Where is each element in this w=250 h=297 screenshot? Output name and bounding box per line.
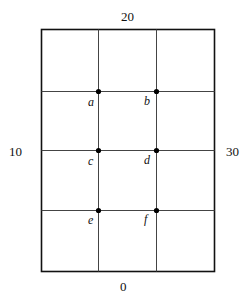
node-label-d: d bbox=[144, 154, 150, 166]
boundary-value-left: 10 bbox=[9, 145, 22, 158]
boundary-value-bottom: 0 bbox=[120, 280, 127, 293]
node-f bbox=[154, 208, 159, 213]
node-label-f: f bbox=[144, 213, 147, 225]
node-label-c: c bbox=[88, 155, 93, 167]
node-label-a: a bbox=[88, 96, 94, 108]
grid-diagram bbox=[0, 0, 250, 297]
boundary-value-top: 20 bbox=[121, 10, 134, 23]
node-label-e: e bbox=[88, 214, 93, 226]
node-c bbox=[96, 148, 101, 153]
node-e bbox=[96, 208, 101, 213]
node-a bbox=[96, 89, 101, 94]
boundary-value-right: 30 bbox=[226, 145, 239, 158]
node-label-b: b bbox=[144, 95, 150, 107]
node-b bbox=[154, 89, 159, 94]
node-d bbox=[154, 148, 159, 153]
